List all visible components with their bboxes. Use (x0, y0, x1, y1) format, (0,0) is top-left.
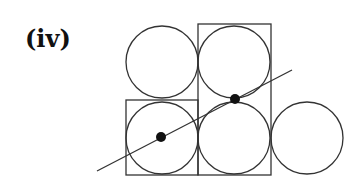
middle-dot (230, 94, 240, 104)
right-circle (271, 102, 343, 174)
top-left-circle (126, 26, 198, 98)
packing-diagram (0, 0, 362, 188)
left-dot (156, 132, 166, 142)
rectangles (126, 24, 271, 175)
